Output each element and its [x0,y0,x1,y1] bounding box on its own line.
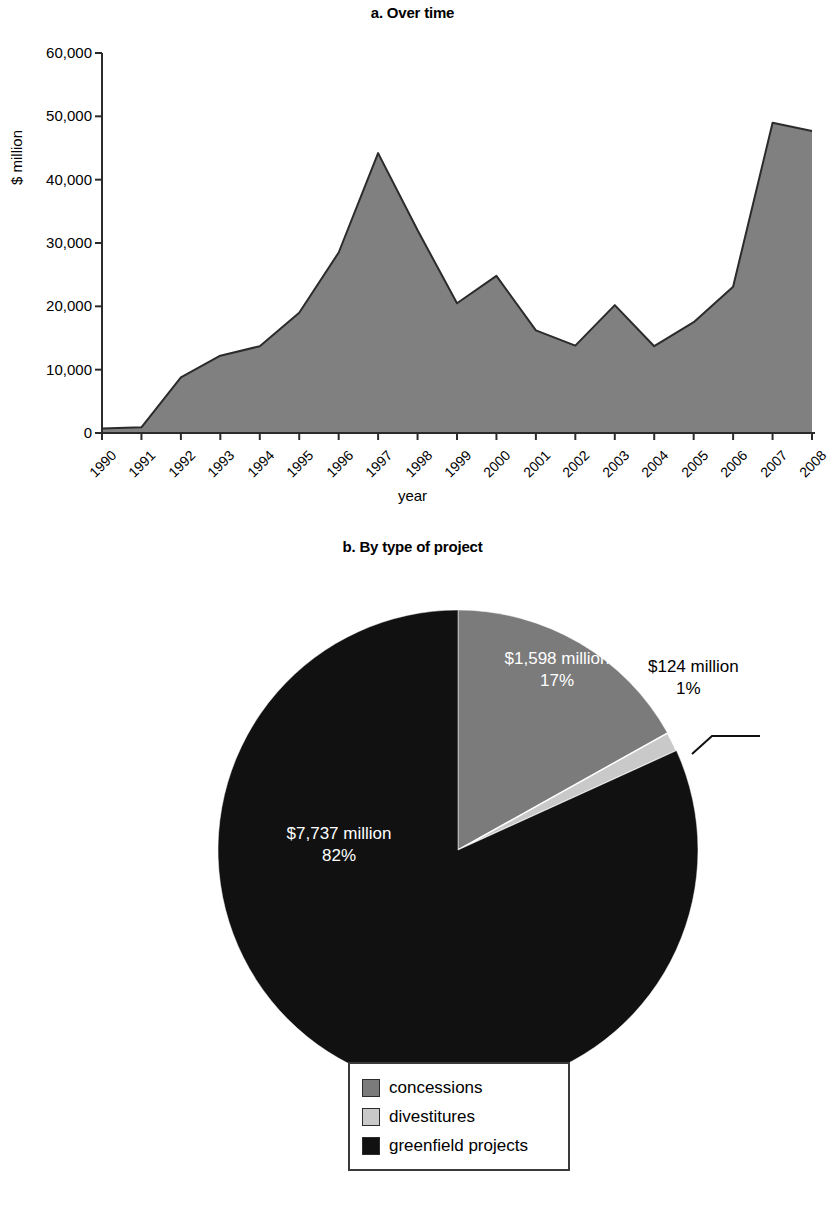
pie-chart-plot [0,564,825,1104]
pie-slices [218,610,698,1090]
area-chart-plot [0,0,825,460]
panel-b-title: b. By type of project [0,538,825,555]
panel-over-time: a. Over time $ million 010,00020,00030,0… [0,0,825,520]
pie-legend: concessionsdivestituresgreenfield projec… [348,1062,570,1171]
legend-item-label: greenfield projects [389,1136,528,1156]
x-axis-title: year [0,487,825,504]
legend-item-label: concessions [389,1078,483,1098]
legend-item-label: divestitures [389,1107,475,1127]
area-series-fill [102,123,812,433]
legend-swatch-icon [362,1137,380,1155]
legend-item-divestitures[interactable]: divestitures [362,1102,558,1131]
legend-item-greenfield-projects[interactable]: greenfield projects [362,1131,558,1160]
legend-swatch-icon [362,1079,380,1097]
legend-item-concessions[interactable]: concessions [362,1073,558,1102]
legend-swatch-icon [362,1108,380,1126]
divestitures-callout-line [692,736,760,754]
